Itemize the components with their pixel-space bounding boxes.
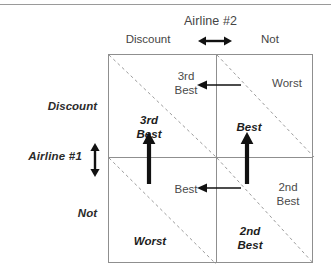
- cell-discount-discount: 3rd Best 3rd Best: [109, 55, 216, 157]
- column-player-title: Airline #2: [108, 14, 313, 28]
- cell-diagonal-divider: [109, 158, 216, 264]
- payoff-matrix-figure: Airline #2 Discount Not Airline #1 Disco…: [0, 0, 331, 279]
- row-strategy-discount: Discount: [0, 100, 97, 112]
- best-response-left-arrow-top-row: [197, 79, 241, 91]
- figure-top-divider: [0, 4, 331, 5]
- double-headed-vertical-arrow-icon: [88, 143, 102, 177]
- row-strategy-not: Not: [0, 207, 97, 219]
- best-response-up-arrow-left-column: [142, 132, 156, 184]
- cell-discount-not: Worst Best: [217, 55, 314, 157]
- best-response-up-arrow-right-column: [240, 132, 254, 184]
- matrix-grid: 3rd Best 3rd Best Worst Best Best Worst …: [108, 54, 313, 263]
- column-strategy-not: Not: [240, 33, 300, 45]
- row-payoff-not-not: 2nd Best: [221, 224, 279, 252]
- cell-diagonal-divider: [217, 55, 314, 157]
- cell-not-discount: Best Worst: [109, 158, 216, 264]
- row-player-title: Airline #1: [0, 150, 82, 162]
- col-payoff-discount-not: Worst: [261, 76, 313, 90]
- best-response-left-arrow-bottom-row: [197, 182, 241, 194]
- cell-not-not: 2nd Best 2nd Best: [217, 158, 314, 264]
- column-strategy-discount: Discount: [108, 33, 188, 45]
- col-payoff-not-not: 2nd Best: [263, 180, 313, 208]
- row-payoff-not-discount: Worst: [119, 234, 181, 248]
- double-headed-horizontal-arrow-icon: [198, 34, 232, 48]
